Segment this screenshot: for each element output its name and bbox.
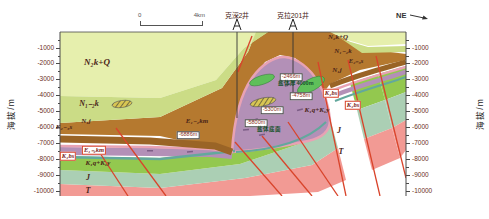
depth-annotation: -5300m xyxy=(261,106,284,114)
axis-minor-tick xyxy=(58,56,61,57)
axis-tick xyxy=(56,48,60,49)
axis-tick xyxy=(56,79,60,80)
axis-tick xyxy=(56,63,60,64)
scale-bracket xyxy=(140,21,203,26)
axis-tick xyxy=(406,79,410,80)
stratum-label: E₂₋₃s xyxy=(56,124,72,131)
axis-minor-tick xyxy=(58,71,61,72)
axis-tick-label: -6000 xyxy=(412,124,444,131)
direction-indicator: NE xyxy=(396,11,429,21)
axis-minor-tick xyxy=(58,119,61,120)
well-label: 克深2井 xyxy=(225,12,250,19)
axis-minor-tick xyxy=(406,71,409,72)
well-label: 克拉201井 xyxy=(277,12,310,19)
axis-tick xyxy=(406,191,410,192)
axis-tick xyxy=(406,95,410,96)
stratum-label: K₁q+K₁y xyxy=(86,160,111,167)
axis-minor-tick xyxy=(406,151,409,152)
direction-arrow-icon xyxy=(409,11,429,21)
axis-tick-label: -1000 xyxy=(412,45,444,52)
geological-cross-section: 0 4km NE 海拔/m 海拔/m -1000-1000-2000-2000-… xyxy=(0,0,489,219)
axis-tick-label: -6000 xyxy=(28,124,54,131)
strata-layers xyxy=(60,30,406,196)
axis-minor-tick xyxy=(58,167,61,168)
axis-tick xyxy=(406,175,410,176)
axis-tick-label: -2000 xyxy=(28,60,54,67)
stratum-label: E₁₋₂km xyxy=(186,118,209,125)
axis-tick-label: -3000 xyxy=(28,76,54,83)
stratum-label: J xyxy=(337,127,341,135)
stratum-label-boxed: E₁₋₂km xyxy=(82,146,106,155)
axis-minor-tick xyxy=(58,135,61,136)
axis-tick xyxy=(406,48,410,49)
axis-tick-label: -3000 xyxy=(412,76,444,83)
salt-annotation: 盐体底面 xyxy=(257,127,281,133)
salt-annotation: 盐体厚4000m xyxy=(278,81,313,87)
axis-tick xyxy=(56,95,60,96)
axis-tick-label: -10000 xyxy=(412,188,444,195)
axis-title-right: 海拔/m xyxy=(473,98,485,129)
stratum-label-boxed: K₁bs xyxy=(323,89,339,98)
axis-tick-label: -7000 xyxy=(412,140,444,147)
axis-minor-tick xyxy=(58,103,61,104)
axis-tick-label: -9000 xyxy=(412,172,444,179)
stratum-label: N₁j xyxy=(81,118,90,125)
axis-tick xyxy=(406,143,410,144)
axis-tick-label: -5000 xyxy=(28,108,54,115)
stratum-label: T xyxy=(86,187,91,195)
stratum-label: N₂k+Q xyxy=(328,34,348,41)
stratum-label: N₁j xyxy=(332,67,341,74)
stratum-label: N₁₋₂k xyxy=(334,48,351,55)
axis-tick-label: -2000 xyxy=(412,60,444,67)
depth-annotation: -4758m xyxy=(290,92,313,100)
axis-minor-tick xyxy=(406,56,409,57)
axis-title-left: 海拔/m xyxy=(4,98,16,129)
stratum-label: T xyxy=(339,148,344,156)
axis-tick-label: -5000 xyxy=(412,108,444,115)
stratum-label: K₁q+K₁y xyxy=(305,107,330,114)
axis-tick-label: -8000 xyxy=(28,156,54,163)
axis-tick-label: -8000 xyxy=(412,156,444,163)
direction-label: NE xyxy=(396,11,406,20)
axis-minor-tick xyxy=(406,40,409,41)
stratum-label: E₂₋₃s xyxy=(349,58,363,65)
axis-tick-label: -10000 xyxy=(28,188,54,195)
scale-max: 4km xyxy=(194,12,205,18)
stratum-label: N₂k+Q xyxy=(84,58,110,67)
axis-tick xyxy=(56,111,60,112)
axis-minor-tick xyxy=(58,87,61,88)
axis-minor-tick xyxy=(406,87,409,88)
axis-minor-tick xyxy=(406,103,409,104)
derrick-icon xyxy=(233,19,297,30)
axis-tick-label: -7000 xyxy=(28,140,54,147)
axis-tick xyxy=(56,191,60,192)
axis-minor-tick xyxy=(406,167,409,168)
axis-tick xyxy=(56,175,60,176)
axis-tick-label: -9000 xyxy=(28,172,54,179)
depth-annotation: -6886m xyxy=(177,131,200,139)
axis-tick-label: -4000 xyxy=(28,92,54,99)
axis-tick xyxy=(406,111,410,112)
axis-tick xyxy=(406,159,410,160)
axis-tick-label: -4000 xyxy=(412,92,444,99)
axis-minor-tick xyxy=(406,119,409,120)
scale-zero: 0 xyxy=(138,12,141,18)
axis-minor-tick xyxy=(406,135,409,136)
stratum-label-boxed: K₁bs xyxy=(345,101,361,110)
axis-minor-tick xyxy=(58,183,61,184)
scale-bar: 0 4km xyxy=(138,12,205,26)
axis-minor-tick xyxy=(58,40,61,41)
axis-tick xyxy=(56,143,60,144)
axis-tick xyxy=(406,127,410,128)
axis-tick xyxy=(406,63,410,64)
stratum-label: N₁₋₂k xyxy=(79,100,98,108)
axis-minor-tick xyxy=(406,183,409,184)
stratum-label-boxed: K₁bs xyxy=(60,152,76,161)
axis-tick-label: -1000 xyxy=(28,45,54,52)
stratum-label: J xyxy=(86,174,90,182)
